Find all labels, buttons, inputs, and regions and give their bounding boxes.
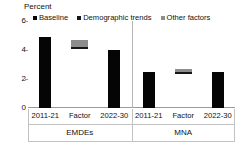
x-axis-category-label: 2022-30: [201, 111, 236, 121]
bar-mna-2011-21: [143, 72, 155, 108]
plot-area: 0246: [28, 21, 235, 108]
x-axis-category-label: Factor: [166, 111, 201, 121]
stacked-bar-emdes-factor: [71, 40, 88, 50]
stacked-bar-mna-factor: [175, 69, 192, 73]
x-axis-group-label-mna: MNA: [132, 128, 236, 138]
bar-mna-2022-30: [212, 72, 224, 108]
x-axis-category-label: Factor: [63, 111, 98, 121]
y-axis-tick-mark: [25, 79, 28, 80]
y-axis-tick-label: 0: [1, 104, 26, 112]
group-separator: [132, 21, 133, 108]
y-axis-tick-label: 4: [1, 46, 26, 54]
legend-swatch-other-factors: [161, 16, 165, 20]
y-axis-tick-label: 2: [1, 75, 26, 83]
x-axis-category-label: 2022-30: [97, 111, 132, 121]
y-axis-unit-label: Percent: [24, 2, 52, 11]
bar-segment-demographic-trends: [175, 72, 192, 74]
legend-swatch-demographic-trends: [77, 16, 81, 20]
category-label-band: 2011-21Factor2022-302011-21Factor2022-30: [28, 109, 235, 125]
y-axis-tick-mark: [25, 50, 28, 51]
bar-segment-demographic-trends: [71, 47, 88, 49]
y-axis-tick-label: 6: [1, 17, 26, 25]
bar-segment-other-factors: [71, 40, 88, 47]
x-axis-category-label: 2011-21: [28, 111, 63, 121]
group-label-band: EMDEsMNA: [28, 125, 235, 142]
x-axis-group-label-emdes: EMDEs: [28, 128, 132, 138]
bar-emdes-2011-21: [39, 37, 51, 108]
x-axis-category-label: 2011-21: [132, 111, 167, 121]
legend-swatch-baseline: [33, 16, 37, 20]
y-axis-tick-mark: [25, 21, 28, 22]
bar-emdes-2022-30: [108, 50, 120, 108]
chart-container: Percent Baseline Demographic trends Othe…: [0, 0, 246, 150]
